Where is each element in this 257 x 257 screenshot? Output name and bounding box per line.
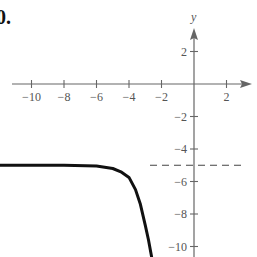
y-tick-label: −4	[174, 142, 187, 156]
y-tick-label: 2	[181, 45, 187, 59]
y-tick-label: −10	[168, 240, 187, 254]
x-tick-label: −4	[123, 90, 136, 104]
y-tick-label: −2	[174, 110, 187, 124]
problem-number: 0.	[0, 6, 11, 28]
function-curve	[0, 165, 152, 257]
y-tick-label: −8	[174, 207, 187, 221]
x-tick-label: −2	[155, 90, 168, 104]
y-axis-label: y	[190, 10, 197, 24]
y-tick-label: −6	[174, 175, 187, 189]
x-tick-label: 2	[224, 90, 230, 104]
x-tick-label: −10	[22, 90, 41, 104]
function-graph: 0. y −10−8−6−4−22 2−2−4−6−8−10	[0, 0, 257, 257]
x-tick-label: −6	[90, 90, 103, 104]
x-tick-label: −8	[58, 90, 71, 104]
